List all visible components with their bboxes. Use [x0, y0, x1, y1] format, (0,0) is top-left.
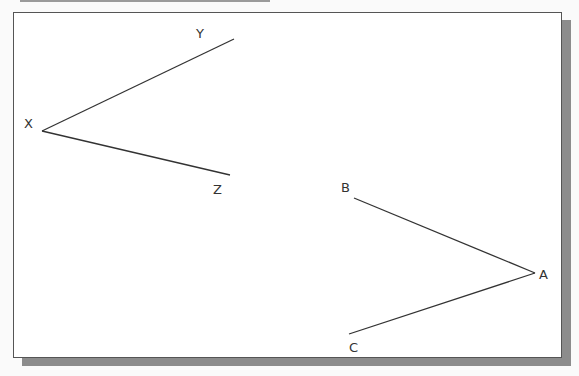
label-c: C	[349, 340, 358, 355]
angle-diagram: X Y Z A B C	[0, 0, 579, 376]
label-x: X	[24, 116, 33, 131]
angle-yxz: X Y Z	[24, 26, 234, 197]
ray-xz	[42, 131, 230, 175]
angle-bac: A B C	[341, 180, 548, 355]
label-y: Y	[195, 26, 204, 41]
ray-ac	[349, 273, 535, 334]
ray-xy	[42, 39, 234, 131]
label-z: Z	[213, 182, 222, 197]
label-a: A	[539, 267, 548, 282]
ray-ab	[354, 198, 535, 273]
label-b: B	[341, 180, 350, 195]
